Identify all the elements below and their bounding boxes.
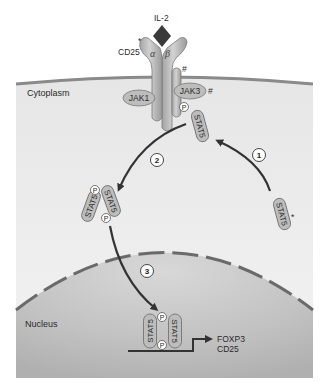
svg-text:P: P bbox=[160, 342, 165, 349]
beta-label: β bbox=[164, 48, 170, 59]
jak3-hash-marker: # bbox=[208, 86, 213, 96]
svg-text:P: P bbox=[182, 104, 187, 111]
il2-stat5-pathway-diagram: Cytoplasm Nucleus α β IL-2 CD25 * # JAK1… bbox=[0, 0, 330, 383]
svg-text:2: 2 bbox=[155, 156, 160, 165]
jak1-label: JAK1 bbox=[129, 93, 150, 103]
il2-label: IL-2 bbox=[154, 13, 169, 23]
jak1-kinase: JAK1 bbox=[123, 90, 155, 106]
svg-text:P: P bbox=[160, 314, 165, 321]
target-gene-foxp3: FOXP3 bbox=[217, 334, 245, 344]
svg-text:P: P bbox=[104, 215, 109, 222]
cd25-label: CD25 bbox=[118, 47, 140, 57]
nucleus-label: Nucleus bbox=[25, 319, 58, 329]
svg-text:STAT5: STAT5 bbox=[146, 319, 155, 343]
cytoplasm-label: Cytoplasm bbox=[27, 88, 70, 98]
target-gene-cd25: CD25 bbox=[217, 344, 239, 354]
svg-text:3: 3 bbox=[145, 267, 150, 276]
svg-text:P: P bbox=[93, 187, 98, 194]
jak3-label: JAK3 bbox=[180, 86, 201, 96]
svg-text:1: 1 bbox=[257, 151, 262, 160]
il2-ligand-diamond bbox=[153, 25, 171, 47]
alpha-label: α bbox=[150, 48, 156, 59]
svg-text:STAT5: STAT5 bbox=[170, 319, 179, 343]
gamma-hash-marker: # bbox=[182, 64, 187, 74]
